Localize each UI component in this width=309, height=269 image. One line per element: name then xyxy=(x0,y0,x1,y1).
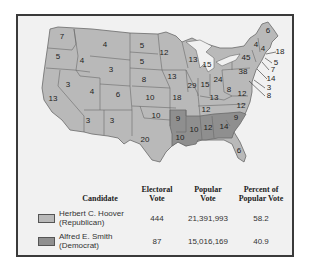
state-label-ga: 14 xyxy=(220,122,229,131)
callout-line-md xyxy=(249,81,265,96)
percent-popular-vote: 58.2 xyxy=(230,214,292,223)
state-label-tn: 12 xyxy=(202,105,211,114)
state-label-ma: 18 xyxy=(276,47,285,56)
callout-line-nj xyxy=(257,69,267,79)
percent-popular-vote: 40.9 xyxy=(230,237,292,246)
header-electoral-vote: Electoral Vote xyxy=(137,185,177,203)
header-percent-line2: Popular Vote xyxy=(230,194,292,203)
state-label-pa: 38 xyxy=(239,67,248,76)
header-candidate: Candidate xyxy=(70,194,130,203)
candidate-hoover: Herbert C. Hoover (Republican) xyxy=(59,209,124,227)
state-label-or: 5 xyxy=(56,52,61,61)
callout-line-ri xyxy=(265,58,272,63)
state-label-ms: 10 xyxy=(190,125,199,134)
header-popular-line2: Vote xyxy=(178,194,238,203)
header-popular-line1: Popular xyxy=(178,185,238,194)
state-label-in: 15 xyxy=(201,80,210,89)
candidate-name: Herbert C. Hoover xyxy=(59,209,124,218)
state-label-mt: 4 xyxy=(103,40,108,49)
electoral-vote: 444 xyxy=(137,214,177,223)
header-percent-popular-vote: Percent of Popular Vote xyxy=(230,185,292,203)
state-label-fl: 6 xyxy=(237,146,242,155)
callout-line-ct xyxy=(262,62,269,70)
state-label-mn: 12 xyxy=(160,48,169,57)
state-label-vt: 4 xyxy=(254,40,259,49)
democrat-swatch xyxy=(38,237,55,246)
state-label-al: 12 xyxy=(204,123,213,132)
state-label-az: 3 xyxy=(86,116,91,125)
state-label-ny: 45 xyxy=(242,53,251,62)
candidate-party: (Democrat) xyxy=(59,241,112,250)
state-label-la: 10 xyxy=(176,133,185,142)
header-electoral-line2: Vote xyxy=(137,194,177,203)
state-label-ks: 10 xyxy=(146,93,155,102)
state-label-ky: 13 xyxy=(210,93,219,102)
state-label-nd: 5 xyxy=(140,41,145,50)
state-label-wa: 7 xyxy=(60,32,65,41)
header-popular-vote: Popular Vote xyxy=(178,185,238,203)
state-label-va: 12 xyxy=(238,89,247,98)
candidate-smith: Alfred E. Smith (Democrat) xyxy=(59,232,112,250)
state-label-nm: 3 xyxy=(110,116,115,125)
state-label-ct: 7 xyxy=(271,65,276,74)
callout-line-de xyxy=(254,80,265,88)
state-label-tx: 20 xyxy=(141,135,150,144)
state-label-ut: 4 xyxy=(90,87,95,96)
state-label-nv: 3 xyxy=(66,80,71,89)
state-label-nh: 4 xyxy=(261,44,266,53)
state-label-ne: 8 xyxy=(142,75,147,84)
state-label-ca: 13 xyxy=(49,94,58,103)
state-label-co: 6 xyxy=(116,90,121,99)
state-label-nc: 12 xyxy=(237,101,246,110)
state-label-id: 4 xyxy=(80,56,85,65)
state-label-sd: 5 xyxy=(140,57,145,66)
state-label-sc: 9 xyxy=(234,113,239,122)
callout-line-ma xyxy=(266,52,276,54)
state-label-md: 8 xyxy=(267,91,272,100)
popular-vote: 15,016,169 xyxy=(178,237,238,246)
state-label-ia: 13 xyxy=(168,72,177,81)
state-label-wv: 8 xyxy=(227,85,232,94)
header-percent-line1: Percent of xyxy=(230,185,292,194)
popular-vote: 21,391,993 xyxy=(178,214,238,223)
state-label-oh: 24 xyxy=(214,75,223,84)
state-label-mo: 18 xyxy=(173,93,182,102)
state-label-il: 29 xyxy=(188,81,197,90)
state-label-me: 6 xyxy=(266,26,271,35)
state-label-ar: 9 xyxy=(176,114,181,123)
candidate-name: Alfred E. Smith xyxy=(59,232,112,241)
state-label-mi: 15 xyxy=(203,60,212,69)
electoral-vote: 87 xyxy=(137,237,177,246)
state-label-wy: 3 xyxy=(109,65,114,74)
header-electoral-line1: Electoral xyxy=(137,185,177,194)
republican-swatch xyxy=(38,214,55,223)
state-vote-labels: 7513344346335581010201213189101329151524… xyxy=(0,0,309,269)
state-label-nj: 14 xyxy=(267,74,276,83)
state-label-ok: 10 xyxy=(152,111,161,120)
state-label-wi: 13 xyxy=(189,55,198,64)
candidate-party: (Republican) xyxy=(59,218,124,227)
